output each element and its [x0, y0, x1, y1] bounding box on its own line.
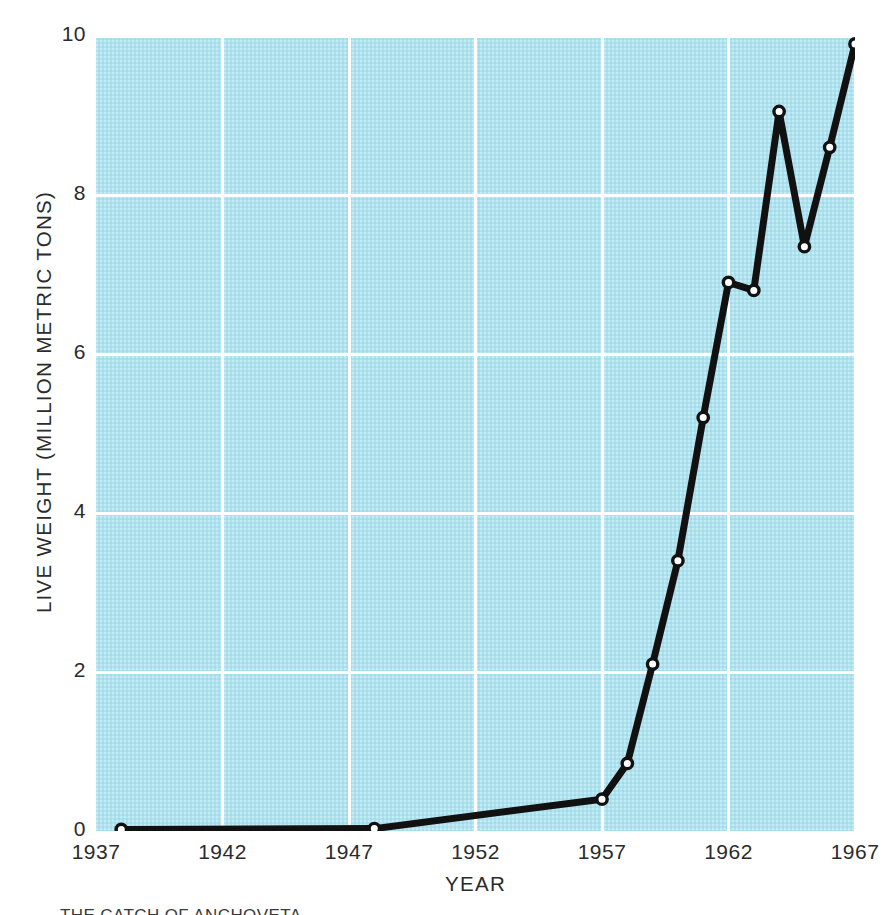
- series-polyline: [121, 44, 855, 829]
- x-tick-label: 1937: [51, 840, 141, 864]
- data-point-marker: [723, 277, 733, 287]
- y-tick-label: 8: [4, 181, 86, 205]
- data-point-marker: [850, 39, 855, 49]
- x-axis-title: YEAR: [96, 872, 855, 896]
- x-tick-label: 1947: [304, 840, 394, 864]
- x-tick-label: 1942: [178, 840, 268, 864]
- data-point-marker: [698, 412, 708, 422]
- data-point-marker: [622, 758, 632, 768]
- y-axis-tick-labels: 0246810: [0, 36, 86, 831]
- y-tick-label: 6: [4, 340, 86, 364]
- x-axis-tick-labels: 1937194219471952195719621967: [96, 840, 855, 870]
- data-point-marker: [774, 106, 784, 116]
- data-point-marker: [825, 142, 835, 152]
- figure-caption-partial: THE CATCH OF ANCHOVETA: [60, 906, 301, 915]
- data-point-marker: [673, 556, 683, 566]
- data-point-marker: [749, 285, 759, 295]
- y-tick-label: 0: [4, 817, 86, 841]
- y-tick-label: 2: [4, 658, 86, 682]
- data-point-marker: [647, 659, 657, 669]
- data-point-marker: [799, 241, 809, 251]
- x-tick-label: 1967: [810, 840, 888, 864]
- x-tick-label: 1957: [557, 840, 647, 864]
- data-point-marker: [597, 794, 607, 804]
- data-point-marker: [369, 823, 379, 831]
- x-tick-label: 1952: [431, 840, 521, 864]
- x-tick-label: 1962: [684, 840, 774, 864]
- data-point-marker: [116, 824, 126, 831]
- y-tick-label: 10: [4, 22, 86, 46]
- y-tick-label: 4: [4, 499, 86, 523]
- plot-area: [96, 36, 855, 831]
- figure: LIVE WEIGHT (MILLION METRIC TONS) 024681…: [0, 0, 888, 915]
- data-series-line: [96, 36, 855, 831]
